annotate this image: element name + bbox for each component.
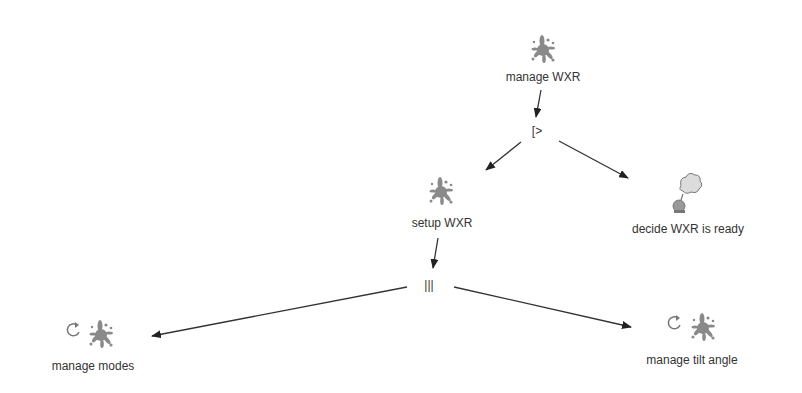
edge-setup-to-interleave	[433, 238, 438, 268]
edge-disable-to-setup	[486, 142, 521, 170]
splat-task-icon[interactable]	[532, 35, 556, 63]
loop-arrow-icon	[67, 322, 79, 336]
edge-disable-to-decide	[559, 141, 628, 178]
node-label-manage-tilt-angle[interactable]: manage tilt angle	[646, 353, 737, 367]
node-label-manage-modes[interactable]: manage modes	[52, 359, 135, 373]
splat-task-icon[interactable]	[430, 177, 454, 205]
edge-interleave-to-tilt	[454, 287, 631, 327]
thought-bubble-user-icon[interactable]	[673, 173, 702, 213]
node-label-manage-wxr[interactable]: manage WXR	[506, 70, 581, 84]
operator-disabling: [>	[532, 124, 542, 138]
edge-interleave-to-modes	[152, 287, 407, 336]
loop-arrow-icon	[668, 315, 680, 329]
splat-task-icon[interactable]	[692, 313, 716, 341]
operator-interleaving: |||	[424, 278, 433, 292]
node-label-setup-wxr[interactable]: setup WXR	[412, 216, 473, 230]
task-model-diagram: manage WXR setup WXR decide WXR is ready…	[0, 0, 802, 393]
edges-layer	[0, 0, 802, 393]
edge-manage-wxr-to-disable	[536, 90, 541, 117]
splat-task-icon[interactable]	[90, 320, 114, 348]
node-label-decide-wxr-ready[interactable]: decide WXR is ready	[632, 222, 744, 236]
